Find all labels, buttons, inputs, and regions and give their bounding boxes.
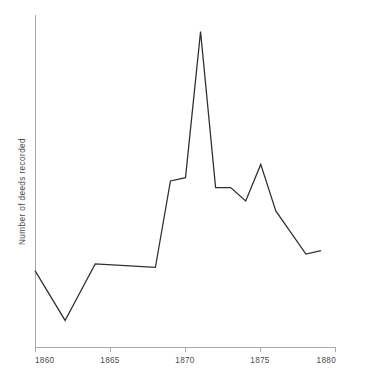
x-axis-tick-labels: 1860 1865 1870 1875 1880 <box>35 356 336 365</box>
x-tick-label-1875: 1875 <box>250 356 270 365</box>
y-axis-title: Number of deeds recorded <box>18 138 27 245</box>
line-chart-plot: 1860 1865 1870 1875 1880 Number of deeds… <box>0 0 365 378</box>
x-tick-label-1870: 1870 <box>175 356 195 365</box>
data-series-deeds-recorded <box>35 32 321 321</box>
chart-figure: 1860 1865 1870 1875 1880 Number of deeds… <box>0 0 365 378</box>
x-tick-label-1860: 1860 <box>35 356 55 365</box>
x-tick-label-1865: 1865 <box>100 356 120 365</box>
x-tick-label-1880: 1880 <box>317 356 337 365</box>
